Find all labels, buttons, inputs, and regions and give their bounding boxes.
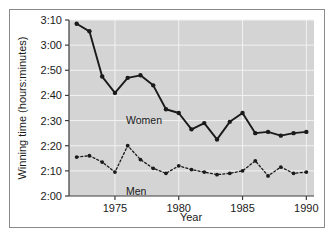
- figure-canvas: 2:002:102:202:302:402:503:003:10 1975198…: [0, 0, 336, 248]
- figure-frame: 2:002:102:202:302:402:503:003:10 1975198…: [9, 9, 325, 228]
- svg-text:1985: 1985: [230, 202, 254, 214]
- svg-text:2:10: 2:10: [41, 165, 62, 177]
- svg-text:3:10: 3:10: [41, 14, 62, 26]
- svg-text:2:20: 2:20: [41, 140, 62, 152]
- series-label-women: Women: [126, 114, 162, 126]
- svg-text:1990: 1990: [294, 202, 318, 214]
- series-label-men: Men: [126, 185, 147, 197]
- y-axis-title: Winning time (hours:minutes): [16, 36, 28, 179]
- svg-text:2:50: 2:50: [41, 64, 62, 76]
- x-axis-title: Year: [180, 211, 203, 223]
- svg-text:3:00: 3:00: [41, 39, 62, 51]
- x-axis-tick-labels: 1975198019851990: [103, 202, 319, 214]
- svg-text:1975: 1975: [103, 202, 127, 214]
- svg-text:2:30: 2:30: [41, 115, 62, 127]
- svg-text:2:00: 2:00: [41, 190, 62, 202]
- svg-text:2:40: 2:40: [41, 89, 62, 101]
- line-chart: 2:002:102:202:302:402:503:003:10 1975198…: [10, 10, 326, 229]
- y-axis-tick-labels: 2:002:102:202:302:402:503:003:10: [41, 14, 62, 202]
